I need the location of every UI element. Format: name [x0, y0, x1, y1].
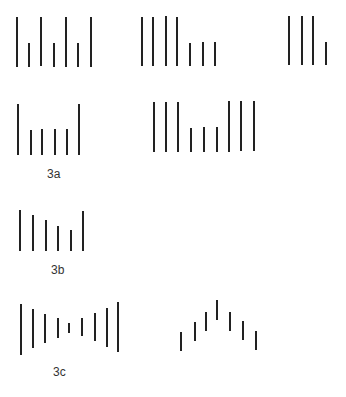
row1-group-a [17, 17, 91, 67]
row2-group-b [154, 101, 254, 152]
row4-group-3c-right [181, 300, 256, 351]
row4-group-3c-left [21, 302, 118, 355]
row2-group-a [18, 104, 79, 155]
line-pattern-figure [0, 0, 346, 397]
row1-group-c [289, 16, 326, 65]
figure-label-3a: 3a [47, 168, 60, 180]
row3-group-3b [20, 210, 83, 251]
figure-label-3c: 3c [53, 366, 66, 378]
row1-group-b [142, 16, 215, 66]
figure-label-3b: 3b [51, 264, 64, 276]
